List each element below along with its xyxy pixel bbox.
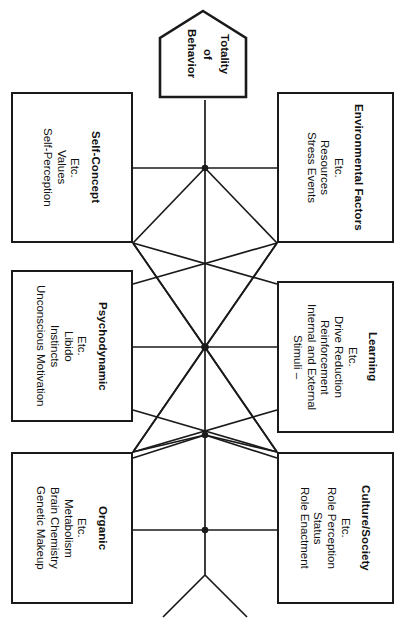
diag-lower-to-organic-far xyxy=(133,435,205,458)
node-culture-society-item-2: Role Perception xyxy=(325,487,339,569)
diag-hub-upper-right xyxy=(205,243,277,347)
node-environmental-factors-items: Stress Events Resources Etc. xyxy=(305,132,346,203)
node-organic-item-3: Etc. xyxy=(75,518,89,538)
node-environmental-factors[interactable]: Environmental Factors Stress Events Reso… xyxy=(277,92,394,243)
node-psychodynamic-item-2: Libido xyxy=(61,331,75,362)
node-organic-title: Organic xyxy=(96,506,110,550)
diag-lower-to-culture xyxy=(205,435,277,452)
node-organic-item-0: Genetic Makeup xyxy=(34,486,48,570)
node-psychodynamic-items: Unconscious Motivation Instincts Libido … xyxy=(34,285,89,406)
node-self-concept[interactable]: Self-Concept Self-Perception Values Etc. xyxy=(11,92,133,243)
node-self-concept-title: Self-Concept xyxy=(89,131,103,203)
chevron-leg-left xyxy=(163,575,205,617)
node-self-concept-item-0: Self-Perception xyxy=(41,128,55,207)
node-learning-items: Stimuli – Internal and External Reinforc… xyxy=(291,304,359,410)
node-organic-item-1: Brain Chemistry xyxy=(48,487,62,569)
diag-hub-upper-left xyxy=(133,243,205,347)
cross-selfconcept-to-learning xyxy=(133,243,277,284)
diag-lower-to-culture-far xyxy=(205,435,277,458)
node-culture-society-title: Culture/Society xyxy=(359,485,373,571)
node-culture-society-item-3: Etc. xyxy=(339,518,353,538)
diag-upper-to-learning xyxy=(205,168,277,243)
node-learning-item-1: Internal and External xyxy=(305,304,319,410)
node-learning-item-2: Reinforcement xyxy=(318,320,332,395)
node-culture-society-items: Role Enactment Status Role Perception Et… xyxy=(298,487,353,569)
node-organic-items: Genetic Makeup Brain Chemistry Metabolis… xyxy=(34,486,89,570)
node-psychodynamic-item-0: Unconscious Motivation xyxy=(34,285,48,406)
node-psychodynamic[interactable]: Psychodynamic Unconscious Motivation Ins… xyxy=(11,270,133,422)
node-psychodynamic-item-1: Instincts xyxy=(48,325,62,367)
diag-hub-lower-left xyxy=(133,347,205,452)
node-learning-title: Learning xyxy=(366,332,380,381)
cross-envfactors-to-psycho xyxy=(133,243,277,284)
node-organic-item-2: Metabolism xyxy=(61,499,75,558)
diag-lower-to-organic xyxy=(133,435,205,452)
node-culture-society-item-1: Status xyxy=(311,512,325,545)
long-x-right-down xyxy=(133,243,277,452)
node-learning[interactable]: Learning Stimuli – Internal and External… xyxy=(277,281,394,433)
node-environmental-factors-title: Environmental Factors xyxy=(352,104,366,231)
node-psychodynamic-item-3: Etc. xyxy=(75,336,89,356)
apex-line-1: of xyxy=(201,49,215,60)
cross-organic-to-learning xyxy=(133,410,277,452)
diag-upper-to-psychodynamic xyxy=(133,168,205,243)
junction-bottom-dot xyxy=(202,527,209,534)
node-environmental-factors-item-0: Stress Events xyxy=(305,132,319,203)
node-self-concept-item-1: Values xyxy=(55,150,69,184)
diag-hub-lower-right xyxy=(205,347,277,452)
node-culture-society[interactable]: Culture/Society Role Enactment Status Ro… xyxy=(277,452,394,604)
cross-culture-to-psycho xyxy=(133,410,277,452)
node-psychodynamic-title: Psychodynamic xyxy=(96,302,110,391)
junction-upper-dot xyxy=(202,165,209,172)
long-x-left-down xyxy=(133,243,277,452)
node-learning-item-3: Drive Reduction xyxy=(332,316,346,398)
node-culture-society-item-0: Role Enactment xyxy=(298,487,312,569)
chevron-leg-right xyxy=(205,575,247,617)
node-organic[interactable]: Organic Genetic Makeup Brain Chemistry M… xyxy=(11,452,133,604)
node-learning-item-4: Etc. xyxy=(345,347,359,367)
node-environmental-factors-item-1: Resources xyxy=(318,140,332,195)
apex-line-0: Totality xyxy=(218,34,232,74)
diagram-canvas: Totality of Behavior Self-Concept Self-P… xyxy=(0,0,405,626)
node-self-concept-items: Self-Perception Values Etc. xyxy=(41,128,82,207)
apex-line-2: Behavior xyxy=(185,29,199,78)
totality-of-behavior-node[interactable]: Totality of Behavior xyxy=(157,8,249,100)
node-self-concept-item-2: Etc. xyxy=(68,158,82,178)
node-environmental-factors-item-2: Etc. xyxy=(332,158,346,178)
node-learning-item-0: Stimuli – xyxy=(291,335,305,379)
junction-hub-dot xyxy=(201,343,209,351)
junction-lower-dot xyxy=(202,432,209,439)
